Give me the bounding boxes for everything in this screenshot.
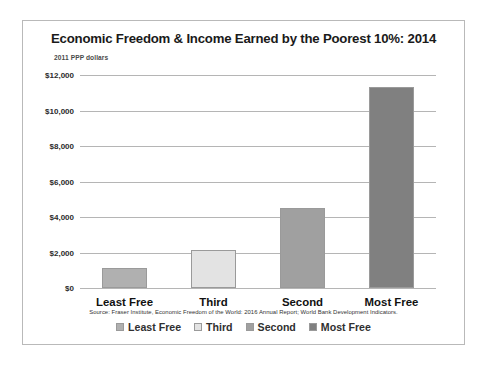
y-axis-tick-label: $4,000 bbox=[50, 213, 74, 222]
chart-card: Economic Freedom & Income Earned by the … bbox=[22, 20, 465, 345]
source-note: Source: Fraser Institute, Economic Freed… bbox=[23, 309, 464, 315]
legend-label: Third bbox=[206, 321, 232, 333]
legend-swatch-icon bbox=[194, 323, 202, 331]
bar-third bbox=[191, 250, 236, 288]
y-axis-tick-label: $6,000 bbox=[50, 177, 74, 186]
x-axis-tick-label: Least Free bbox=[80, 296, 169, 308]
plot-area: $12,000$10,000$8,000$6,000$4,000$2,000$0… bbox=[80, 75, 436, 288]
legend-item-second[interactable]: Second bbox=[246, 321, 296, 333]
bar-most-free bbox=[369, 87, 414, 288]
legend-swatch-icon bbox=[309, 323, 317, 331]
bars-group bbox=[80, 75, 436, 288]
legend-label: Second bbox=[258, 321, 296, 333]
gridline bbox=[80, 288, 436, 289]
x-axis-tick-label: Most Free bbox=[347, 296, 436, 308]
y-axis-unit-label: 2011 PPP dollars bbox=[54, 54, 108, 61]
y-axis-tick-label: $0 bbox=[65, 284, 74, 293]
legend-label: Least Free bbox=[128, 321, 181, 333]
bar-second bbox=[280, 208, 325, 288]
y-axis-tick-label: $8,000 bbox=[50, 142, 74, 151]
y-axis-tick-label: $12,000 bbox=[45, 71, 74, 80]
x-axis-tick-label: Second bbox=[258, 296, 347, 308]
chart-legend: Least FreeThirdSecondMost Free bbox=[23, 321, 464, 333]
bar-least-free bbox=[102, 268, 147, 288]
legend-item-most-free[interactable]: Most Free bbox=[309, 321, 371, 333]
legend-item-third[interactable]: Third bbox=[194, 321, 232, 333]
x-axis-tick-label: Third bbox=[169, 296, 258, 308]
y-axis-tick-label: $2,000 bbox=[50, 248, 74, 257]
legend-swatch-icon bbox=[246, 323, 254, 331]
legend-label: Most Free bbox=[321, 321, 371, 333]
chart-title: Economic Freedom & Income Earned by the … bbox=[23, 31, 464, 46]
legend-swatch-icon bbox=[116, 323, 124, 331]
legend-item-least-free[interactable]: Least Free bbox=[116, 321, 181, 333]
y-axis-tick-label: $10,000 bbox=[45, 106, 74, 115]
